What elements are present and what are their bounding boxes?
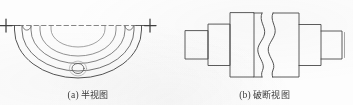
shaft-step-end-left xyxy=(185,31,208,59)
outer-flange-outline xyxy=(15,26,142,78)
figure-caption-text-a: 半视图 xyxy=(81,90,109,100)
shaft-step-2-left xyxy=(208,25,230,66)
inner-arc-1 xyxy=(31,26,125,63)
figure-caption-broken-view: (b)破断视图 xyxy=(176,89,353,101)
broken-view-drawing xyxy=(176,0,353,90)
notch-right xyxy=(125,26,134,30)
figure-panel-broken-view: (b)破断视图 xyxy=(176,0,353,105)
figure-panel-half-view: (a)半视图 xyxy=(0,0,176,105)
figure-caption-half-view: (a)半视图 xyxy=(0,89,176,101)
shaft-step-3-right xyxy=(273,13,299,77)
figure-caption-text-b: 破断视图 xyxy=(253,90,290,100)
figure-sheet: (a)半视图 xyxy=(0,0,353,105)
shaft-step-2-right xyxy=(299,25,321,66)
half-view-drawing xyxy=(0,0,176,90)
figure-tag-a: (a) xyxy=(68,90,79,100)
shaft-step-end-right xyxy=(321,31,342,59)
break-line-right xyxy=(268,13,275,77)
bolt-hole-circle xyxy=(72,64,84,74)
break-line-left xyxy=(258,13,265,77)
symmetry-cross-mark-left xyxy=(1,19,13,32)
notch-left xyxy=(23,26,32,30)
figure-tag-b: (b) xyxy=(239,90,251,100)
shaft-step-3-left xyxy=(230,13,254,77)
symmetry-cross-mark-right xyxy=(145,19,157,32)
inner-bore-arc xyxy=(51,26,105,47)
